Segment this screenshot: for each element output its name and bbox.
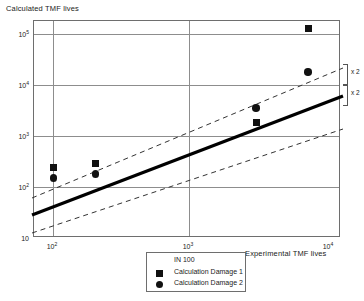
trend-lines-layer xyxy=(34,21,341,238)
ideal-fit-line xyxy=(32,96,343,215)
lower-factor-2-band-line xyxy=(32,129,343,233)
y-tick-1e5: 105 xyxy=(5,29,29,38)
tmf-life-correlation-chart: Calculated TMF lives Experimental TMF li… xyxy=(0,0,364,301)
y-tick-1e4: 104 xyxy=(5,80,29,89)
data-point-damage1 xyxy=(50,164,57,171)
legend: IN 100 Calculation Damage 1 Calculation … xyxy=(146,252,246,292)
legend-label-damage2: Calculation Damage 2 xyxy=(174,279,243,286)
factor-2-label-lower: x 2 xyxy=(351,89,360,96)
legend-title: IN 100 xyxy=(174,256,195,263)
factor-2-bracket-upper xyxy=(343,64,348,85)
data-point-damage2 xyxy=(50,174,58,182)
data-point-damage1 xyxy=(253,119,260,126)
x-tick-1e3: 103 xyxy=(176,241,200,250)
data-point-damage2 xyxy=(92,170,100,178)
legend-label-damage1: Calculation Damage 1 xyxy=(174,268,243,275)
y-axis-title: Calculated TMF lives xyxy=(6,4,79,13)
x-tick-1e2: 102 xyxy=(40,241,64,250)
y-tick-1e3: 103 xyxy=(5,131,29,140)
data-point-damage2 xyxy=(304,68,312,76)
factor-2-bracket-lower xyxy=(343,85,348,106)
y-tick-1e1: 10 xyxy=(5,233,29,242)
legend-circle-marker-icon xyxy=(156,281,163,288)
y-tick-1e2: 102 xyxy=(5,182,29,191)
x-tick-1e4: 104 xyxy=(316,241,340,250)
legend-square-marker-icon xyxy=(156,270,163,277)
data-point-damage1 xyxy=(92,160,99,167)
x-axis-title: Experimental TMF lives xyxy=(245,249,327,258)
data-point-damage1 xyxy=(305,25,312,32)
upper-factor-2-band-line xyxy=(32,68,343,198)
plot-area xyxy=(33,20,340,237)
data-point-damage2 xyxy=(252,104,260,112)
factor-2-label-upper: x 2 xyxy=(351,68,360,75)
